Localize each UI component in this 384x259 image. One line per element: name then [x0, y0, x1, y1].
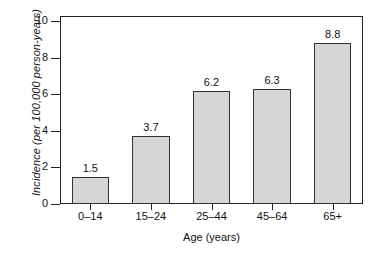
x-axis-tick-label: 65+: [298, 210, 368, 223]
y-axis-tick-mark: [51, 167, 60, 168]
bar-value-label: 3.7: [121, 121, 181, 133]
y-axis-tick-mark: [51, 204, 60, 205]
y-axis-tick-label: 2: [8, 161, 48, 172]
bar: [72, 177, 109, 204]
y-axis-tick-mark: [51, 58, 60, 59]
bar-value-label: 6.2: [182, 76, 242, 88]
y-axis-tick-mark: [51, 94, 60, 95]
x-axis-tick-label: 0–14: [55, 210, 125, 223]
bar: [253, 89, 290, 204]
y-axis-tick-label: 10: [8, 15, 48, 26]
y-axis-tick-label: 0: [8, 198, 48, 209]
bar-value-label: 1.5: [60, 162, 120, 174]
bar: [132, 136, 169, 204]
bar: [193, 91, 230, 204]
y-axis-tick-mark: [51, 131, 60, 132]
x-axis-tick-label: 25–44: [177, 210, 247, 223]
bar-chart-figure: Incidence (per 100,000 person-years) 024…: [0, 0, 384, 259]
bar: [314, 43, 351, 204]
x-axis-tick-label: 15–24: [116, 210, 186, 223]
y-axis-tick-label: 8: [8, 52, 48, 63]
bar-value-label: 8.8: [303, 28, 363, 40]
y-axis-title: Incidence (per 100,000 person-years): [26, 0, 46, 205]
y-axis-tick-label: 4: [8, 125, 48, 136]
x-axis-title: Age (years): [60, 231, 363, 244]
bar-value-label: 6.3: [242, 74, 302, 86]
x-axis-tick-label: 45–64: [237, 210, 307, 223]
y-axis-tick-mark: [51, 21, 60, 22]
y-axis-tick-label: 6: [8, 88, 48, 99]
